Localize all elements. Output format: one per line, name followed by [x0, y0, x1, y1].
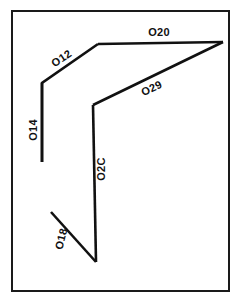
label-o20: O20	[148, 26, 170, 38]
diagram-frame	[12, 11, 229, 291]
figure-canvas: O12O14O20O29O2CO18	[0, 0, 241, 301]
line-diagram: O12O14O20O29O2CO18	[0, 0, 241, 301]
label-o2c: O2C	[95, 157, 107, 181]
label-o14: O14	[27, 119, 39, 141]
